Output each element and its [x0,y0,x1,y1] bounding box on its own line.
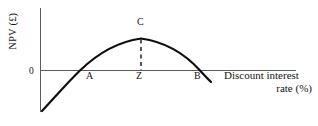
npv-vs-discount-rate-figure: NPV (£) 0 A Z B C Discount interest rate… [0,0,318,126]
x-axis-label: Discount interest rate (%) [224,69,312,94]
x-axis-label-line1: Discount interest [224,69,312,82]
plot-canvas [0,0,318,126]
y-axis-label: NPV (£) [8,1,19,61]
origin-label: 0 [29,67,34,77]
point-label-c: C [137,17,144,27]
point-label-b: B [194,71,201,81]
x-axis-label-line2: rate (%) [224,82,312,95]
npv-curve [42,39,211,112]
point-label-a: A [86,71,93,81]
point-label-z: Z [136,71,142,81]
